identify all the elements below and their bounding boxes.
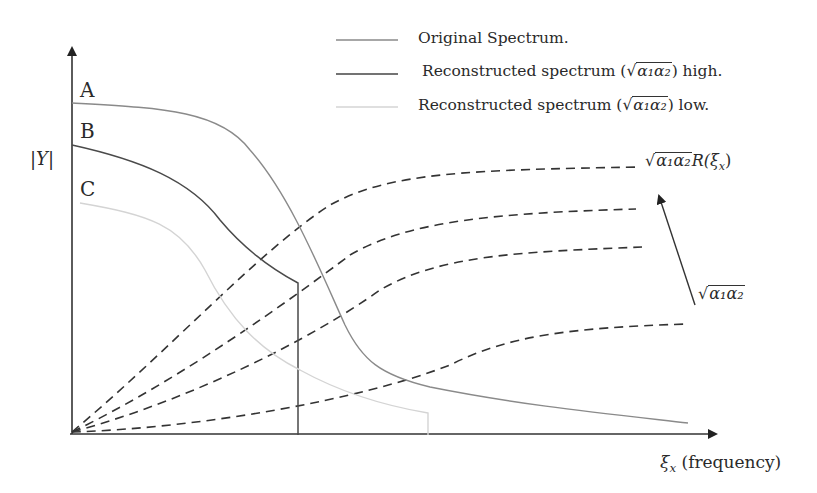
dashed-curve-3 <box>72 247 642 432</box>
x-axis-subscript: x <box>669 461 676 475</box>
y-axis-label: |Y| <box>30 148 54 169</box>
increase-arrow <box>659 196 695 305</box>
dashed-curve-2 <box>72 209 636 432</box>
original-spectrum-curve <box>72 103 688 423</box>
legend-item-high: Reconstructed spectrum (√α₁α₂) high. <box>422 62 722 80</box>
legend-low-math: α₁α₂ <box>632 96 667 113</box>
legend-item-low: Reconstructed spectrum (√α₁α₂) low. <box>418 96 709 114</box>
dashed-curve-1 <box>72 167 640 432</box>
arrow-annotation-math: α₁α₂ <box>708 285 744 303</box>
dashed-curve-family <box>72 167 686 432</box>
legend-low-suffix: ) low. <box>668 96 710 114</box>
point-label-a: A <box>80 78 94 102</box>
point-label-c: C <box>80 177 95 201</box>
top-curve-math: α₁α₂ <box>655 152 691 170</box>
arrow-annotation: √α₁α₂ <box>698 284 745 303</box>
point-label-b: B <box>80 119 95 143</box>
reconstructed-high-curve <box>72 145 298 435</box>
legend-high-suffix: ) high. <box>672 62 723 80</box>
top-curve-func: R(ξ <box>692 151 719 170</box>
legend-item-original: Original Spectrum. <box>418 29 569 47</box>
x-axis-symbol: ξ <box>660 452 669 472</box>
x-axis-text: (frequency) <box>682 452 782 472</box>
dashed-curve-4 <box>72 324 686 432</box>
top-curve-close: ) <box>725 151 731 170</box>
legend-low-prefix: Reconstructed spectrum ( <box>418 96 622 114</box>
legend-high-math: α₁α₂ <box>636 62 671 79</box>
legend-high-prefix: Reconstructed spectrum ( <box>422 62 626 80</box>
top-curve-annotation: √α₁α₂R(ξx) <box>645 151 731 173</box>
x-axis-label: ξx (frequency) <box>660 452 781 475</box>
